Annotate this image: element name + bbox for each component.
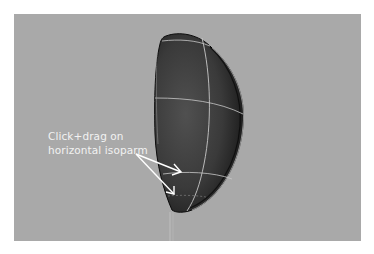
annotation-line-1: Click+drag on bbox=[48, 129, 148, 143]
half-sphere-surface[interactable] bbox=[155, 34, 244, 213]
3d-viewport[interactable]: Click+drag on horizontal isoparm bbox=[14, 14, 361, 241]
annotation-label: Click+drag on horizontal isoparm bbox=[48, 129, 148, 157]
annotation-line-2: horizontal isoparm bbox=[48, 143, 148, 157]
pivot-axis-line bbox=[170, 212, 173, 241]
viewport-canvas[interactable] bbox=[14, 14, 361, 241]
